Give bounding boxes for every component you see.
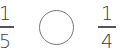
left-numerator: 1 bbox=[0, 3, 14, 23]
right-fraction: 1 4 bbox=[98, 3, 116, 51]
right-denominator: 4 bbox=[98, 31, 116, 51]
left-denominator: 5 bbox=[0, 31, 14, 51]
comparison-answer-circle[interactable] bbox=[39, 10, 74, 45]
left-fraction: 1 5 bbox=[0, 3, 14, 51]
right-numerator: 1 bbox=[98, 3, 116, 23]
fraction-bar bbox=[0, 26, 14, 28]
fraction-bar bbox=[98, 26, 116, 28]
